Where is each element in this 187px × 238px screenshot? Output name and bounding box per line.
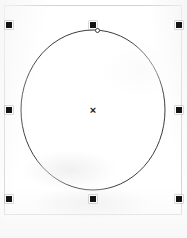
handle-middle-left[interactable]: [5, 106, 13, 114]
handle-middle-right[interactable]: [175, 106, 183, 114]
handle-top-right[interactable]: [175, 21, 183, 29]
center-marker: ×: [88, 105, 99, 116]
screenshot-root: ×: [0, 0, 187, 238]
handle-top-left[interactable]: [5, 21, 13, 29]
handle-bottom-left[interactable]: [5, 195, 13, 203]
handle-bottom-center[interactable]: [89, 195, 97, 203]
handle-bottom-right[interactable]: [175, 195, 183, 203]
ellipse-control-point[interactable]: [95, 28, 100, 33]
